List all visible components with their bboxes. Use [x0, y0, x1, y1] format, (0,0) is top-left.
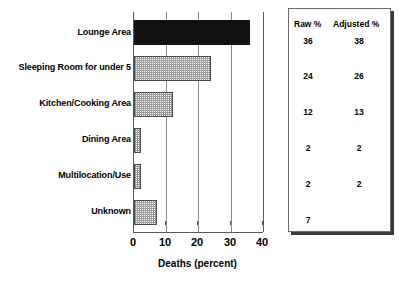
category-label-unknown: Unknown	[91, 206, 131, 216]
xtick-0	[133, 221, 134, 225]
xtick-label-10: 10	[153, 236, 177, 248]
bar-dining-area	[134, 128, 141, 153]
xtick-10	[165, 221, 166, 225]
xtick-label-30: 30	[218, 236, 242, 248]
table-cell-raw-2: 12	[295, 107, 321, 117]
bar-sleeping-room	[134, 56, 211, 81]
table-cell-adjusted-1: 26	[346, 71, 372, 81]
table-header-raw-percent: Raw %	[294, 19, 321, 29]
table-header-adjusted-percent: Adjusted %	[333, 19, 379, 29]
plot-area	[133, 12, 263, 233]
bar-unknown	[134, 200, 157, 225]
category-label-multilocation: Multilocation/Use	[58, 170, 131, 180]
gridline-20	[198, 12, 199, 232]
bar-multilocation	[134, 164, 141, 189]
table-cell-adjusted-0: 38	[346, 36, 372, 46]
xtick-label-20: 20	[185, 236, 209, 248]
table-cell-adjusted-2: 13	[346, 107, 372, 117]
table-cell-adjusted-4: 2	[346, 179, 372, 189]
table-cell-raw-0: 36	[295, 36, 321, 46]
x-axis-label: Deaths (percent)	[133, 258, 262, 269]
category-label-sleeping-room: Sleeping Room for under 5	[18, 62, 131, 72]
category-label-lounge-area: Lounge Area	[77, 27, 131, 37]
table-cell-raw-3: 2	[295, 143, 321, 153]
xtick-label-0: 0	[121, 236, 145, 248]
gridline-10	[166, 12, 167, 232]
xtick-label-40: 40	[250, 236, 274, 248]
xtick-20	[197, 221, 198, 225]
table-cell-raw-4: 2	[295, 179, 321, 189]
category-label-kitchen-cooking: Kitchen/Cooking Area	[39, 98, 131, 108]
category-label-dining-area: Dining Area	[82, 134, 131, 144]
xtick-30	[230, 221, 231, 225]
table-cell-raw-1: 24	[295, 71, 321, 81]
side-data-table: Raw % Adjusted % 36 38 24 26 12 13 2 2 2…	[288, 8, 391, 232]
bar-kitchen-cooking	[134, 92, 173, 117]
table-cell-adjusted-3: 2	[346, 143, 372, 153]
xtick-40	[262, 221, 263, 225]
table-cell-raw-5: 7	[295, 215, 321, 225]
plot-right-border	[263, 12, 264, 232]
bar-chart-figure: Lounge Area Sleeping Room for under 5 Ki…	[0, 0, 399, 282]
gridline-30	[231, 12, 232, 232]
bar-lounge-area	[134, 20, 250, 45]
